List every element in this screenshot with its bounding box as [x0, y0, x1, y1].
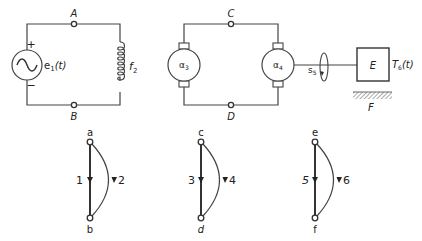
edge-3-arrow-icon [198, 177, 204, 183]
terminal-C [228, 21, 233, 26]
node-f-label: f [313, 224, 317, 235]
node-c [198, 139, 204, 145]
node-d [198, 215, 204, 221]
edge-4-arrow-icon [223, 177, 229, 183]
load-label: E [370, 60, 377, 71]
terminal-B [71, 102, 76, 107]
edge-4-label: 4 [229, 174, 236, 187]
node-f [312, 215, 318, 221]
terminal-D-label: D [227, 111, 235, 122]
node-d-label: d [198, 224, 205, 235]
minus-sign: − [26, 79, 35, 92]
node-e-label: e [312, 127, 318, 138]
ground-hatch-icon [353, 92, 392, 99]
graph-3: e f 5 6 [302, 127, 350, 235]
edge-1-label: 1 [76, 174, 83, 187]
inductor-label: f2 [129, 60, 137, 75]
node-e [312, 139, 318, 145]
graph-2: c d 3 4 [188, 127, 236, 235]
diagram-canvas: A B + − e1(t) f2 C D α3 [0, 0, 422, 241]
edge-1-arrow-icon [87, 177, 93, 183]
edge-6-label: 6 [343, 174, 350, 187]
terminal-A [71, 21, 76, 26]
inductor-icon [118, 42, 125, 81]
edge-6 [317, 144, 334, 216]
node-b [87, 215, 93, 221]
terminal-B-label: B [71, 111, 78, 122]
terminal-D [228, 102, 233, 107]
ac-source-icon [12, 50, 42, 80]
circuit1-wire-top [27, 24, 120, 50]
edge-5-arrow-icon [312, 177, 318, 183]
edge-5-label: 5 [302, 174, 309, 187]
plus-sign: + [26, 38, 35, 51]
source-label: e1(t) [44, 60, 66, 73]
edge-2-arrow-icon [112, 177, 118, 183]
circuit-2: C D α3 α4 s5 E [168, 8, 414, 122]
node-c-label: c [198, 127, 204, 138]
rotation-arrow-icon [320, 53, 328, 81]
circuit1-wire-bottom [27, 80, 120, 105]
edge-2-label: 2 [118, 174, 125, 187]
ground-label: F [368, 102, 374, 113]
terminal-A-label: A [70, 8, 78, 19]
node-a-label: a [87, 127, 93, 138]
edge-4 [203, 144, 220, 216]
circuit-1: A B + − e1(t) f2 [12, 8, 137, 122]
shaft-label: s5 [308, 65, 317, 76]
edge-6-arrow-icon [337, 177, 343, 183]
node-a [87, 139, 93, 145]
node-b-label: b [87, 224, 93, 235]
edge-2 [92, 144, 109, 216]
edge-3-label: 3 [188, 174, 195, 187]
terminal-C-label: C [228, 8, 235, 19]
torque-label: T6(t) [392, 59, 414, 71]
graph-1: a b 1 2 [76, 127, 125, 235]
